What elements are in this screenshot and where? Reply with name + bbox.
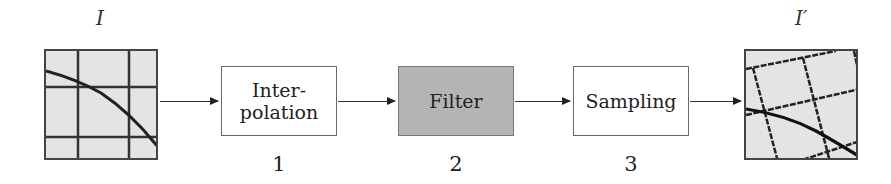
arrow-sampling-to-output	[690, 101, 741, 102]
output-image-label: I′	[795, 6, 807, 30]
interpolation-label-line2: polation	[240, 101, 318, 123]
arrow-interpolation-to-filter	[338, 101, 395, 102]
arrow-filter-to-sampling	[515, 101, 570, 102]
sampling-box: Sampling	[573, 66, 689, 136]
sampling-label: Sampling	[585, 90, 676, 112]
input-image-label: I	[96, 6, 104, 30]
interpolation-box: Inter- polation	[221, 66, 337, 136]
filter-box: Filter	[398, 66, 514, 136]
stage-number-2: 2	[436, 152, 476, 176]
output-image-grid	[744, 49, 858, 160]
interpolation-label-line1: Inter-	[240, 79, 318, 101]
stage-number-1: 1	[259, 152, 299, 176]
input-image-grid	[44, 49, 158, 160]
filter-label: Filter	[429, 90, 482, 112]
stage-number-3: 3	[611, 152, 651, 176]
arrow-input-to-interpolation	[160, 101, 218, 102]
